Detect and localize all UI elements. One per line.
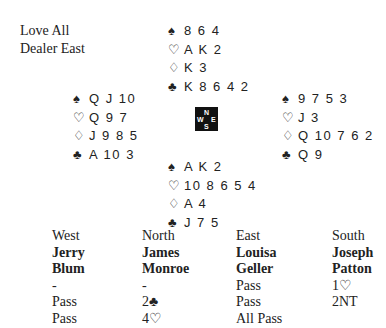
player-first-name: Joseph (332, 245, 386, 262)
diamond-icon: ♢ (168, 195, 184, 214)
diamond-icon: ♢ (282, 127, 298, 146)
west-hand: ♠Q J 10 ♡Q 9 7 ♢J 9 8 5 ♣A 10 3 (73, 90, 139, 164)
bid: Pass (236, 278, 326, 295)
bid: - (142, 278, 232, 295)
deal-info: Love All Dealer East (20, 22, 85, 58)
player-last-name: Patton (332, 261, 386, 278)
spade-icon: ♠ (168, 158, 184, 177)
bid: - (52, 278, 142, 295)
bid (332, 311, 386, 328)
west-diamonds: J 9 8 5 (89, 128, 139, 143)
player-last-name: Geller (236, 261, 326, 278)
heart-icon: ♡ (168, 177, 184, 196)
west-clubs: A 10 3 (89, 147, 135, 162)
compass-west: W (197, 116, 204, 123)
diamond-icon: ♢ (73, 127, 89, 146)
auction-column-south: South Joseph Patton 1♡ 2NT (332, 228, 386, 327)
east-hearts: J 3 (298, 110, 320, 125)
south-spades: A K 2 (184, 159, 223, 174)
bid: 2NT (332, 294, 386, 311)
compass-east: E (211, 116, 216, 123)
spade-icon: ♠ (282, 90, 298, 109)
seat-label: West (52, 228, 142, 245)
bid: Pass (236, 294, 326, 311)
north-hand: ♠8 6 4 ♡A K 2 ♢K 3 ♣K 8 6 4 2 (168, 22, 250, 96)
south-hand: ♠A K 2 ♡10 8 6 5 4 ♢A 4 ♣J 7 5 (168, 158, 257, 232)
club-icon: ♣ (73, 146, 89, 165)
heart-icon: ♡ (168, 41, 184, 60)
auction-column-east: East Louisa Geller Pass Pass All Pass (236, 228, 326, 327)
heart-icon: ♡ (282, 109, 298, 128)
west-hearts: Q 9 7 (89, 110, 128, 125)
south-diamonds: A 4 (184, 196, 207, 211)
bid: Pass (52, 294, 142, 311)
bid: All Pass (236, 311, 326, 328)
compass-north: N (204, 109, 209, 116)
south-hearts: 10 8 6 5 4 (184, 178, 257, 193)
club-icon: ♣ (282, 146, 298, 165)
bid: 4♡ (142, 311, 232, 328)
player-last-name: Blum (52, 261, 142, 278)
north-spades: 8 6 4 (184, 23, 220, 38)
auction-column-west: West Jerry Blum - Pass Pass (52, 228, 142, 327)
player-first-name: Louisa (236, 245, 326, 262)
spade-icon: ♠ (73, 90, 89, 109)
compass-icon: N W E S (195, 107, 218, 131)
player-first-name: James (142, 245, 232, 262)
heart-icon: ♡ (73, 109, 89, 128)
west-spades: Q J 10 (89, 91, 136, 106)
diamond-icon: ♢ (168, 59, 184, 78)
east-clubs: Q 9 (298, 147, 323, 162)
player-first-name: Jerry (52, 245, 142, 262)
east-hand: ♠9 7 5 3 ♡J 3 ♢Q 10 7 6 2 ♣Q 9 (282, 90, 374, 164)
seat-label: East (236, 228, 326, 245)
spade-icon: ♠ (168, 22, 184, 41)
east-diamonds: Q 10 7 6 2 (298, 128, 374, 143)
east-spades: 9 7 5 3 (298, 91, 348, 106)
compass-south: S (204, 123, 209, 130)
bid: 1♡ (332, 278, 386, 295)
vulnerability: Love All (20, 22, 85, 40)
seat-label: South (332, 228, 386, 245)
seat-label: North (142, 228, 232, 245)
north-clubs: K 8 6 4 2 (184, 79, 250, 94)
club-icon: ♣ (168, 78, 184, 97)
player-last-name: Monroe (142, 261, 232, 278)
north-diamonds: K 3 (184, 60, 208, 75)
auction-column-north: North James Monroe - 2♣ 4♡ (142, 228, 232, 327)
north-hearts: A K 2 (184, 42, 223, 57)
bid: 2♣ (142, 294, 232, 311)
bid: Pass (52, 311, 142, 328)
dealer: Dealer East (20, 40, 85, 58)
